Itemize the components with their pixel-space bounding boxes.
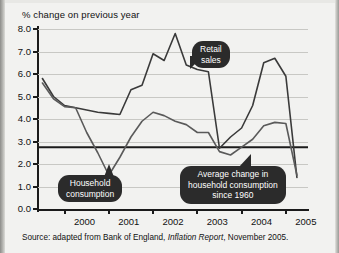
x-axis-tick — [152, 209, 154, 214]
source-publication: Inflation Report — [168, 233, 224, 242]
source-note: Source: adapted from Bank of England, In… — [22, 233, 288, 242]
x-axis — [37, 209, 309, 211]
figure-right-border — [335, 0, 339, 253]
x-axis-tick — [108, 209, 110, 214]
x-axis-label: 2002 — [163, 216, 184, 227]
series-line-retail-sales — [42, 34, 297, 178]
x-axis-tick — [285, 209, 287, 214]
y-axis-label: 8.0 — [18, 23, 31, 34]
figure-top-edge — [0, 0, 339, 3]
figure-left-border — [0, 0, 5, 253]
annotation-average-change: Average change in household consumption … — [180, 166, 286, 204]
x-axis-tick — [196, 209, 198, 214]
x-axis-label: 2003 — [207, 216, 228, 227]
y-axis-label: 2.0 — [18, 158, 31, 169]
source-prefix: Source: adapted from Bank of England, — [22, 233, 168, 242]
y-axis-label: 5.0 — [18, 91, 31, 102]
y-axis-label: 3.0 — [18, 136, 31, 147]
x-axis-label: 2004 — [251, 216, 272, 227]
y-axis-label: 1.0 — [18, 181, 31, 192]
source-suffix: , November 2005. — [223, 233, 288, 242]
chart-title: % change on previous year — [22, 9, 140, 20]
annotation-retail-sales: Retail sales — [192, 41, 230, 68]
y-axis-label: 0.0 — [18, 203, 31, 214]
x-axis-tick — [64, 209, 66, 214]
y-axis-label: 7.0 — [18, 46, 31, 57]
x-axis-label: 2005 — [295, 216, 316, 227]
x-axis-tick — [241, 209, 243, 214]
x-axis-label: 2001 — [118, 216, 139, 227]
chart-figure: % change on previous year 0.01.02.03.04.… — [0, 0, 339, 253]
annotation-household-consumption: Household consumption — [58, 175, 122, 202]
y-axis-label: 4.0 — [18, 113, 31, 124]
x-axis-label: 2000 — [74, 216, 95, 227]
y-axis-label: 6.0 — [18, 68, 31, 79]
series-line-household-consumption — [42, 83, 297, 175]
